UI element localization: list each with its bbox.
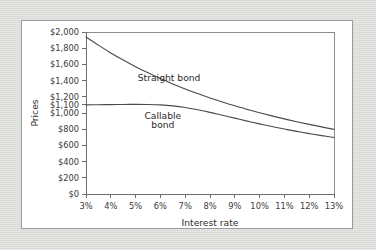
x-tick-label: 7% — [179, 201, 192, 211]
x-tick-label: 13% — [325, 201, 344, 211]
callable-bond-label-line2: bond — [151, 119, 174, 130]
x-tick-label: 8% — [203, 201, 216, 211]
y-tick-label: $400 — [58, 157, 79, 167]
y-tick-label: $0 — [68, 189, 79, 199]
y-tick-label: $2,000 — [50, 27, 79, 37]
x-tick-label: 9% — [228, 201, 241, 211]
bond-price-chart: $0$200$400$600$800$1,000$1,100$1,200$1,4… — [22, 21, 352, 228]
x-tick-label: 12% — [300, 201, 319, 211]
y-tick-label: $600 — [58, 140, 79, 150]
y-tick-label: $200 — [58, 173, 79, 183]
x-tick-label: 5% — [129, 201, 142, 211]
y-axis-title: Prices — [29, 99, 40, 126]
x-tick-label: 6% — [154, 201, 167, 211]
x-tick-label: 3% — [79, 201, 92, 211]
straight-bond-label: Straight bond — [138, 72, 201, 83]
x-tick-label: 11% — [275, 201, 294, 211]
series-curve-callable-bond — [86, 104, 334, 137]
x-tick-label: 4% — [104, 201, 117, 211]
x-axis-title: Interest rate — [182, 217, 239, 228]
y-tick-label: $1,600 — [50, 59, 79, 69]
figure-root: $0$200$400$600$800$1,000$1,100$1,200$1,4… — [0, 0, 376, 250]
y-tick-label: $800 — [58, 124, 79, 134]
y-tick-label: $1,400 — [50, 76, 79, 86]
series-curve-straight-bond — [86, 37, 334, 130]
y-tick-label: $1,200 — [50, 92, 79, 102]
x-tick-label: 10% — [250, 201, 269, 211]
y-tick-label: $1,800 — [50, 43, 79, 53]
chart-panel: $0$200$400$600$800$1,000$1,100$1,200$1,4… — [21, 20, 353, 229]
